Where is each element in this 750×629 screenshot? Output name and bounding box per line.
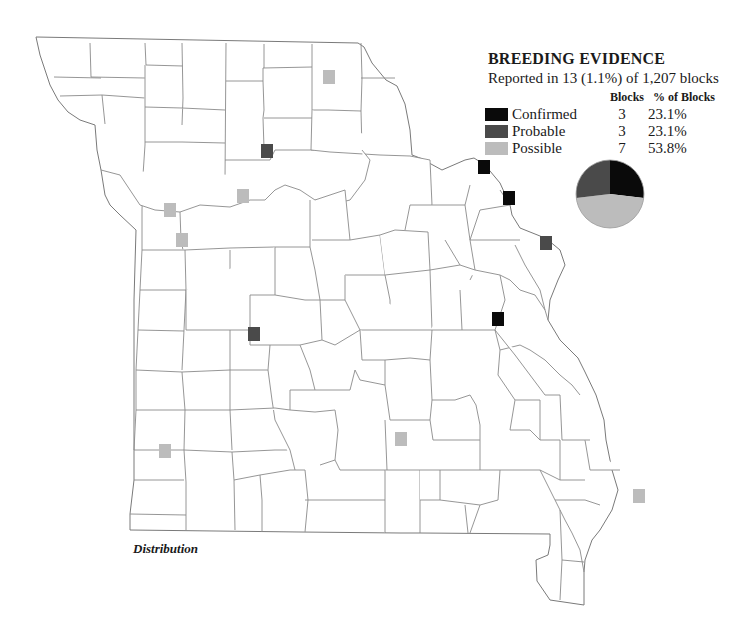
legend-label: Probable xyxy=(512,123,565,140)
marker-possible xyxy=(176,233,188,247)
column-header-pct: % of Blocks xyxy=(653,90,715,105)
marker-possible xyxy=(633,489,645,503)
probable-swatch-icon xyxy=(485,125,508,138)
column-header-blocks: Blocks xyxy=(610,90,644,105)
legend-subtitle: Reported in 13 (1.1%) of 1,207 blocks xyxy=(488,69,748,87)
pie-slice-confirmed xyxy=(610,160,644,198)
legend-blocks: 3 xyxy=(612,106,632,123)
marker-possible xyxy=(323,70,335,84)
legend-pct: 53.8% xyxy=(648,140,718,157)
marker-possible xyxy=(159,444,171,458)
pie-slice-possible xyxy=(576,194,644,228)
possible-swatch-icon xyxy=(485,142,508,155)
marker-confirmed xyxy=(492,312,504,326)
confirmed-swatch-icon xyxy=(485,108,508,121)
legend-blocks: 3 xyxy=(612,123,632,140)
marker-probable xyxy=(248,327,260,341)
legend-pct: 23.1% xyxy=(648,106,718,123)
marker-possible xyxy=(237,189,249,203)
marker-possible xyxy=(395,432,407,446)
marker-possible xyxy=(164,203,176,217)
map-caption: Distribution xyxy=(133,541,198,557)
pie-slice-probable xyxy=(576,160,610,198)
legend-blocks: 7 xyxy=(612,140,632,157)
legend-label: Possible xyxy=(512,140,562,157)
legend: BREEDING EVIDENCE Reported in 13 (1.1%) … xyxy=(488,50,748,87)
marker-confirmed xyxy=(478,160,490,174)
marker-probable xyxy=(540,236,552,250)
marker-probable xyxy=(261,144,273,158)
legend-label: Confirmed xyxy=(512,106,577,123)
marker-confirmed xyxy=(503,191,515,205)
legend-title: BREEDING EVIDENCE xyxy=(488,50,748,68)
legend-pct: 23.1% xyxy=(648,123,718,140)
breeding-evidence-pie-chart xyxy=(576,160,644,228)
